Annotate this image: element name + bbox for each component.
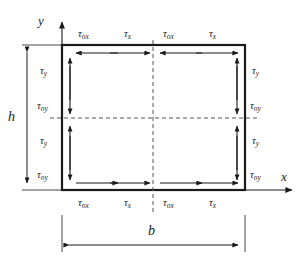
tau-subscript: y <box>256 139 259 148</box>
tau-subscript: x <box>213 201 216 210</box>
right-label-tau-y-2: τy <box>252 136 259 147</box>
right-label-tau-oy-1: τoy <box>250 101 261 112</box>
bottom-label-tau-x-2: τx <box>209 198 216 209</box>
center-lines <box>50 40 258 214</box>
tau-subscript: ox <box>167 201 174 210</box>
right-label-tau-oy-2: τoy <box>250 170 261 181</box>
top-label-tau-x-1: τx <box>124 29 131 40</box>
bottom-label-tau-x-1: τx <box>124 198 131 209</box>
height-dimension-label: h <box>8 110 15 124</box>
top-label-tau-x-2: τx <box>209 29 216 40</box>
top-label-tau-ox-2: τox <box>163 29 174 40</box>
tau-subscript: ox <box>82 201 89 210</box>
tau-subscript: x <box>128 201 131 210</box>
tau-subscript: oy <box>254 173 261 182</box>
tau-subscript: ox <box>167 32 174 41</box>
tau-subscript: ox <box>82 32 89 41</box>
y-axis-label: y <box>38 14 44 27</box>
tau-subscript: y <box>44 139 47 148</box>
tau-subscript: x <box>213 32 216 41</box>
left-label-tau-y-2: τy <box>40 136 47 147</box>
bottom-label-tau-ox-2: τox <box>163 198 174 209</box>
bottom-label-tau-ox-1: τox <box>78 198 89 209</box>
x-axis-label: x <box>281 170 287 183</box>
top-label-tau-ox-1: τox <box>78 29 89 40</box>
tau-subscript: y <box>44 69 47 78</box>
tau-subscript: oy <box>41 173 48 182</box>
left-label-tau-oy-2: τoy <box>37 170 48 181</box>
tau-subscript: y <box>256 69 259 78</box>
width-dimension-label: b <box>148 224 155 238</box>
tau-subscript: oy <box>41 104 48 113</box>
left-label-tau-y-1: τy <box>40 66 47 77</box>
tau-subscript: x <box>128 32 131 41</box>
left-label-tau-oy-1: τoy <box>37 101 48 112</box>
figure-container: y x h b τox τx τox τx τox τx τox τx τy τ… <box>0 0 304 268</box>
right-label-tau-y-1: τy <box>252 66 259 77</box>
tau-subscript: oy <box>254 104 261 113</box>
